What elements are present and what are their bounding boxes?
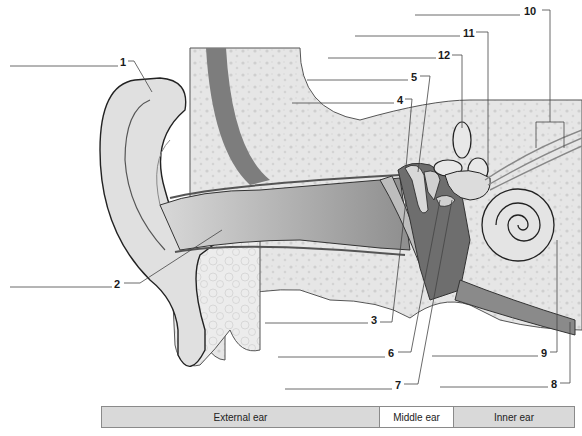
label-4: 4 [397,94,403,106]
legend-middle-ear: Middle ear [380,407,454,427]
label-11: 11 [463,27,475,39]
ear-illustration [0,0,582,436]
cochlea [482,189,554,261]
label-9: 9 [541,347,547,359]
ear-region-legend: External ear Middle ear Inner ear [101,406,575,428]
label-3: 3 [371,314,377,326]
label-2: 2 [114,278,120,290]
label-7: 7 [395,379,401,391]
ear-diagram: 1 2 3 4 5 6 7 8 9 10 11 12 External ear … [0,0,582,436]
label-1: 1 [120,56,126,68]
legend-inner-ear: Inner ear [454,407,574,427]
label-8: 8 [551,378,557,390]
legend-external-ear: External ear [102,407,380,427]
label-5: 5 [411,71,417,83]
label-10: 10 [524,5,536,17]
label-12: 12 [438,49,450,61]
label-6: 6 [388,347,394,359]
